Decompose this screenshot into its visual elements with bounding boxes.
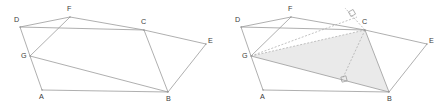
vertex-label-d: D [14, 15, 19, 24]
vertex-label-b: B [166, 94, 171, 103]
geometry-svg-canvas: DFCEBAG DFCEBAG [0, 0, 442, 105]
vertex-point-c [364, 29, 365, 30]
vertex-point-e [426, 43, 427, 44]
edge-F-C [291, 17, 365, 30]
vertex-label-g: G [242, 51, 248, 60]
vertex-label-g: G [21, 51, 27, 60]
edge-A-G [30, 56, 42, 90]
vertex-point-d [240, 26, 241, 27]
vertex-point-d [19, 26, 20, 27]
edge-D-F [20, 17, 70, 27]
panel-left: DFCEBAG [14, 4, 213, 103]
vertex-label-c: C [141, 17, 146, 26]
edge-E-B [168, 44, 206, 92]
vertex-label-c: C [362, 17, 367, 26]
vertex-label-f: F [67, 4, 72, 13]
vertex-label-a: A [260, 92, 265, 101]
vertex-point-a [41, 89, 42, 90]
edge-B-A [42, 90, 168, 92]
edge-C-B [144, 30, 168, 92]
edge-A-G [251, 56, 263, 90]
vertex-point-f [69, 16, 70, 17]
vertex-point-f [290, 16, 291, 17]
vertex-label-e: E [208, 36, 213, 45]
vertex-point-g [29, 55, 30, 56]
panel-left-vertex-labels: DFCEBAG [14, 4, 213, 103]
edge-C-E [144, 30, 206, 44]
vertex-point-e [205, 43, 206, 44]
edge-C-E [365, 30, 427, 44]
vertex-label-e: E [429, 36, 434, 45]
vertex-label-b: B [387, 94, 392, 103]
vertex-label-f: F [288, 4, 293, 13]
geometry-figure-pair: DFCEBAG DFCEBAG [0, 0, 442, 105]
vertex-label-a: A [39, 92, 44, 101]
edge-D-C [20, 27, 144, 30]
edge-D-C [241, 27, 365, 30]
edge-D-F [241, 17, 291, 27]
vertex-point-g [250, 55, 251, 56]
vertex-label-d: D [235, 15, 240, 24]
edge-G-F [30, 17, 70, 56]
vertex-point-a [262, 89, 263, 90]
panel-right: DFCEBAG [235, 4, 434, 103]
edge-E-B [389, 44, 427, 92]
vertex-point-c [143, 29, 144, 30]
vertex-point-b [388, 91, 389, 92]
vertex-point-b [167, 91, 168, 92]
panel-left-edges [20, 17, 206, 92]
edge-G-B [30, 56, 168, 92]
edge-F-C [70, 17, 144, 30]
edge-B-A [263, 90, 389, 92]
